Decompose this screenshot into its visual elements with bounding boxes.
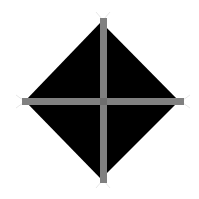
diamond-cross-graphic — [0, 0, 199, 199]
cross-center — [100, 98, 107, 105]
diagram-canvas — [0, 0, 199, 199]
